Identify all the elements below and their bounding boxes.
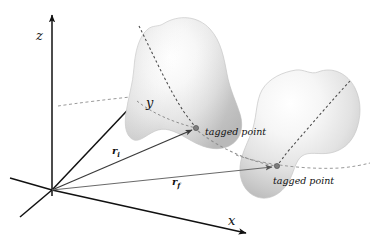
tagged-point-label-initial: tagged point <box>205 127 266 137</box>
diagram-svg <box>0 0 374 248</box>
axis-label-z: z <box>36 29 43 42</box>
vector-label-r-final-subscript: f <box>177 181 180 190</box>
vector-label-r-initial: ri <box>112 146 120 158</box>
axis-label-y: y <box>146 96 153 109</box>
y-axis-negative-stub <box>10 178 52 190</box>
tagged-point-marker-initial <box>193 125 198 130</box>
vector-label-r-initial-subscript: i <box>117 150 120 159</box>
axis-label-x: x <box>228 214 235 227</box>
tagged-point-label-final: tagged point <box>273 176 334 186</box>
x-axis <box>52 190 246 233</box>
vector-r-initial <box>52 130 192 190</box>
vector-label-r-final: rf <box>172 177 180 189</box>
vector-r-final <box>52 167 272 190</box>
figure-canvas: z y x ri rf tagged point tagged point <box>0 0 374 248</box>
tagged-point-marker-final <box>274 163 279 168</box>
x-axis-negative-stub <box>20 190 52 217</box>
